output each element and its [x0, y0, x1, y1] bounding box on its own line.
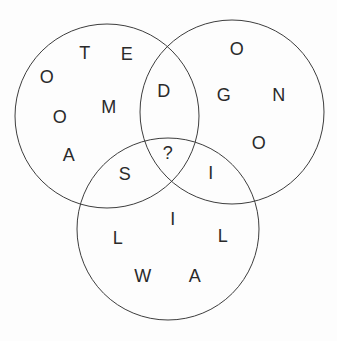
letter-A-bottom: A — [189, 266, 202, 286]
letter-A-top-left: A — [63, 145, 76, 165]
letter-I-bottom: I — [170, 209, 176, 229]
letter-L-bottom: L — [218, 226, 229, 246]
letter-N-top-right: N — [272, 85, 286, 105]
question-mark-center: ? — [163, 143, 174, 163]
letter-O-top-left: O — [40, 67, 55, 87]
letter-O-top-right: O — [230, 39, 245, 59]
letter-S-top-left-bottom: S — [119, 164, 132, 184]
letter-D-top-left-top-right: D — [157, 81, 171, 101]
letter-O-top-left: O — [53, 107, 68, 127]
venn-circle-bottom — [77, 138, 259, 320]
letter-T-top-left: T — [79, 43, 91, 63]
letter-I-top-right-bottom: I — [208, 163, 214, 183]
letter-E-top-left: E — [121, 44, 134, 64]
letter-W-bottom: W — [134, 266, 152, 286]
letter-O-top-right: O — [252, 133, 267, 153]
letter-L-bottom: L — [113, 228, 124, 248]
letter-G-top-right: G — [217, 85, 232, 105]
letter-M-top-left: M — [101, 97, 117, 117]
venn-diagram: OTEMOADOGNO?SIILLWA — [0, 0, 337, 341]
venn-puzzle-canvas: OTEMOADOGNO?SIILLWA — [0, 0, 337, 341]
